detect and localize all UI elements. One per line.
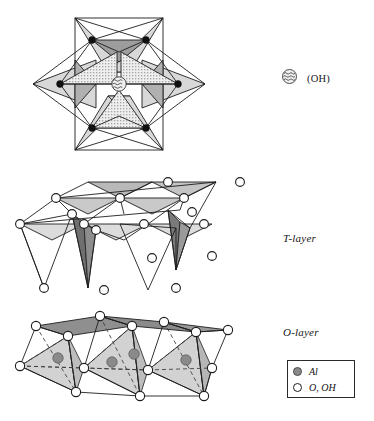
- t-layer-panel: [0, 170, 255, 308]
- oxygen-hydroxyl-vertex: [191, 327, 200, 336]
- vertex-dot: [57, 81, 64, 88]
- oxygen-vertex: [80, 220, 89, 229]
- oxygen-hydroxyl-vertex: [127, 321, 136, 330]
- t-layer-svg: [0, 170, 255, 308]
- oxygen-vertex: [148, 254, 157, 263]
- figure-root: (OH) T-layer O-layer Al O, OH: [0, 0, 374, 421]
- t-layer-label: T-layer: [283, 232, 316, 244]
- oxygen-hydroxyl-vertex: [71, 387, 80, 396]
- vertex-dot: [89, 37, 96, 44]
- oxygen-vertex: [164, 178, 173, 187]
- legend-label-al: Al: [309, 366, 318, 377]
- oxygen-vertex: [188, 208, 197, 217]
- hydroxyl-label: (OH): [307, 73, 330, 84]
- oxygen-vertex: [172, 284, 181, 293]
- oxygen-vertex: [40, 284, 49, 293]
- oxygen-hydroxyl-vertex: [31, 321, 40, 330]
- o-layer-panel: [0, 300, 260, 421]
- vertex-dot: [143, 37, 150, 44]
- vertex-dot: [89, 125, 96, 132]
- vertex-dot: [143, 125, 150, 132]
- top-projection-panel: [0, 0, 250, 172]
- oxygen-hydroxyl-vertex: [199, 391, 208, 400]
- oxygen-vertex: [116, 194, 125, 203]
- oxygen-vertex: [140, 220, 149, 229]
- oxygen-vertex: [52, 194, 61, 203]
- hydroxyl-circle-icon: [281, 68, 298, 85]
- al-sphere: [129, 349, 139, 359]
- oxygen-vertex: [100, 286, 109, 295]
- oxygen-vertex: [92, 226, 101, 235]
- oxygen-hydroxyl-vertex: [135, 391, 144, 400]
- oxygen-vertex: [68, 210, 77, 219]
- al-sphere-icon: [293, 367, 302, 376]
- oxygen-vertex: [200, 220, 209, 229]
- legend-item-al: Al: [293, 364, 318, 379]
- oxygen-hydroxyl-vertex: [207, 363, 216, 372]
- legend-label-o-oh: O, OH: [309, 382, 336, 393]
- al-sphere: [181, 355, 191, 365]
- top-projection-svg: [0, 0, 250, 172]
- central-hydroxyl-icon: [112, 77, 126, 91]
- al-sphere: [53, 353, 63, 363]
- oxygen-hydroxyl-vertex: [159, 317, 168, 326]
- oxygen-vertex: [208, 252, 217, 261]
- oxygen-hydroxyl-vertex: [95, 311, 104, 320]
- oxygen-vertex: [16, 220, 25, 229]
- oxygen-vertex: [180, 194, 189, 203]
- legend-item-o-oh: O, OH: [293, 380, 336, 395]
- oxygen-hydroxyl-vertex: [143, 365, 152, 374]
- o-layer-label: O-layer: [283, 326, 319, 338]
- o-layer-svg: [0, 300, 260, 421]
- open-circle-icon: [293, 383, 302, 392]
- al-sphere: [107, 357, 117, 367]
- oxygen-hydroxyl-vertex: [15, 361, 24, 370]
- oxygen-hydroxyl-vertex: [79, 363, 88, 372]
- oxygen-hydroxyl-vertex: [63, 331, 72, 340]
- oxygen-hydroxyl-vertex: [223, 325, 232, 334]
- oxygen-vertex: [236, 178, 245, 187]
- legend-box: Al O, OH: [287, 360, 355, 398]
- vertex-dot: [175, 81, 182, 88]
